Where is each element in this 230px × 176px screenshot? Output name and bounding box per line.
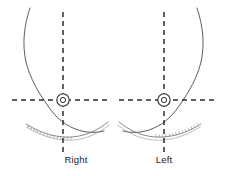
body-contour-right — [24, 8, 104, 132]
breast-landmark-diagram: Right Left — [0, 0, 230, 176]
panel-label-left: Left — [156, 154, 173, 165]
body-contour-left — [123, 8, 203, 132]
panel-right: Right — [12, 8, 109, 165]
nipple-inner-circle-right — [60, 97, 65, 102]
inframammary-fold-hatching-right — [28, 126, 71, 140]
inframammary-fold-solid-right — [26, 122, 108, 137]
panel-label-right: Right — [64, 154, 87, 165]
diagram-canvas: Right Left — [0, 0, 230, 176]
nipple-inner-circle-left — [161, 97, 166, 102]
panel-left: Left — [118, 8, 218, 165]
